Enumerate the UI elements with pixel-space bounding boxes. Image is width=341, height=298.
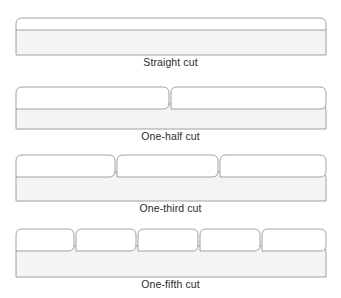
folder-tab: [117, 155, 218, 177]
folder-tab: [16, 18, 326, 30]
caption-one-third-cut: One-third cut: [0, 202, 341, 215]
folder-tab: [220, 155, 326, 177]
folder-tab: [200, 229, 260, 251]
folder-illustration-straight-cut: [0, 14, 341, 56]
folder-illustration-one-fifth-cut: [0, 226, 341, 278]
folder-tab: [138, 229, 198, 251]
caption-straight-cut: Straight cut: [0, 56, 341, 69]
folder-diagram-one-half-cut: One-half cut: [0, 84, 341, 143]
folder-tab: [262, 229, 326, 251]
folder-tab-cuts-figure: Straight cut One-half cut One-third cut: [0, 0, 341, 298]
folder-illustration-one-third-cut: [0, 152, 341, 202]
folder-tab: [171, 87, 326, 109]
caption-one-half-cut: One-half cut: [0, 130, 341, 143]
folder-diagram-one-third-cut: One-third cut: [0, 152, 341, 215]
folder-tab: [76, 229, 136, 251]
folder-diagram-one-fifth-cut: One-fifth cut: [0, 226, 341, 291]
folder-diagram-straight-cut: Straight cut: [0, 14, 341, 69]
folder-tab: [16, 229, 74, 251]
folder-tab: [16, 87, 169, 109]
folder-illustration-one-half-cut: [0, 84, 341, 130]
folder-tab: [16, 155, 115, 177]
caption-one-fifth-cut: One-fifth cut: [0, 278, 341, 291]
